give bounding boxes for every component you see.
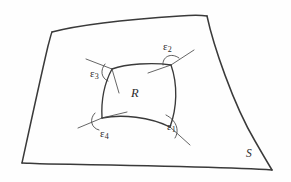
region-label: R [131, 87, 139, 100]
inner-edge-left [102, 69, 112, 118]
epsilon-1-symbol: ε [167, 120, 172, 132]
epsilon-2-inner-extension-ray [148, 65, 171, 73]
epsilon-4-tangent-ray [78, 118, 102, 128]
epsilon-4-symbol: ε [100, 127, 105, 139]
epsilon-3-symbol: ε [90, 67, 95, 79]
epsilon-4-inner-extension-ray [102, 112, 127, 118]
figure-canvas-container: ε2 ε3 ε1 ε4 R S [0, 0, 291, 182]
epsilon-2-symbol: ε [163, 40, 168, 52]
epsilon-2-tangent-ray [171, 50, 194, 65]
epsilon-4-subscript: 4 [105, 132, 109, 141]
outer-edge-bottom [22, 163, 272, 170]
epsilon-1-label: ε1 [167, 121, 176, 134]
epsilon-1-subscript: 1 [172, 125, 176, 134]
epsilon-2-arc [163, 55, 179, 65]
epsilon-4-label: ε4 [100, 128, 109, 141]
epsilon-3-subscript: 3 [95, 72, 99, 81]
epsilon-3-label: ε3 [90, 68, 99, 81]
outer-surface-outline [22, 15, 272, 170]
epsilon-2-label: ε2 [163, 41, 172, 54]
outer-edge-left [22, 32, 52, 163]
epsilon-2-subscript: 2 [168, 45, 172, 54]
epsilon-3-inner-extension-ray [112, 69, 119, 93]
surface-label: S [246, 148, 252, 160]
outer-edge-top [52, 15, 207, 32]
outer-edge-right [207, 16, 272, 170]
inner-edge-bottom [102, 116, 170, 127]
